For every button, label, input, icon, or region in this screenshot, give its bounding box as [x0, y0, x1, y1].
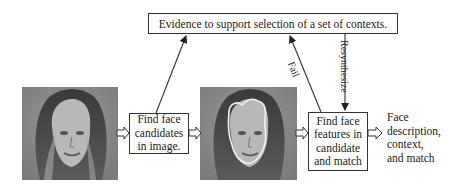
block-arrow-3 [296, 127, 308, 139]
block-arrow-2 [189, 127, 201, 139]
arrows-layer [0, 0, 458, 190]
block-arrow-4 [368, 127, 382, 139]
block-arrow-1 [117, 127, 129, 139]
resynthesize-label: Resynthesize [339, 40, 350, 93]
arrow-candidates-to-evidence [156, 36, 186, 113]
